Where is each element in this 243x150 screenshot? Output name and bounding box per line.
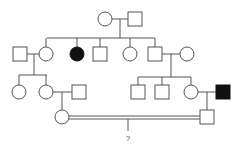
female-unaffected-III-6 [184,85,198,99]
male-unaffected-II-1 [13,47,27,61]
unknown-offspring-label: ? [126,134,131,143]
male-unaffected-IV-2 [200,110,214,124]
female-affected-II-3 [70,47,84,61]
male-affected-III-7 [216,85,230,99]
female-unaffected-II-7 [180,47,194,61]
male-unaffected-II-4 [93,47,107,61]
female-unaffected-II-5 [123,47,137,61]
pedigree-chart: ? [0,0,243,150]
male-unaffected-III-4 [131,85,145,99]
male-unaffected-III-5 [155,85,169,99]
female-unaffected-IV-1 [55,110,69,124]
female-unaffected-II-2 [39,47,53,61]
male-unaffected-III-3 [72,85,86,99]
female-unaffected-III-1 [12,85,26,99]
male-unaffected-I-2 [128,12,142,26]
male-unaffected-II-6 [148,47,162,61]
female-unaffected-III-2 [39,85,53,99]
female-unaffected-I-1 [98,12,112,26]
